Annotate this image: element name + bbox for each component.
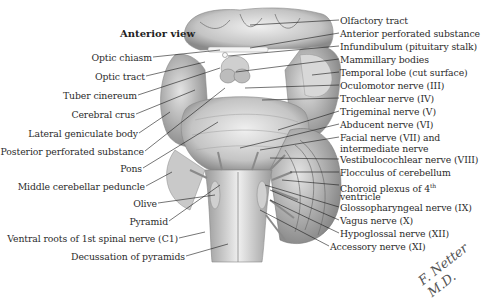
label-optic-chiasm: Optic chiasm — [91, 52, 152, 63]
label-olive: Olive — [133, 198, 157, 209]
label-optic-tract: Optic tract — [95, 71, 145, 82]
label-temporal-lobe-cut-surface: Temporal lobe (cut surface) — [340, 67, 468, 78]
label-text: Glossopharyngeal nerve (IX) — [340, 202, 472, 213]
label-ventricle: ventricle — [340, 191, 381, 202]
label-text: Trigeminal nerve (V) — [340, 106, 436, 117]
label-middle-cerebellar-peduncle: Middle cerebellar peduncle — [18, 181, 145, 192]
label-tuber-cinereum: Tuber cinereum — [63, 90, 137, 101]
label-oculomotor-nerve-iii: Oculomotor nerve (III) — [340, 80, 444, 91]
label-text: Infundibulum (pituitary stalk) — [340, 41, 477, 52]
label-text: Accessory nerve (XI) — [330, 241, 426, 252]
label-decussation-of-pyramids: Decussation of pyramids — [71, 251, 185, 262]
label-glossopharyngeal-nerve-ix: Glossopharyngeal nerve (IX) — [340, 202, 472, 213]
label-ventral-roots-of-1st-spinal-nerve-c1: Ventral roots of 1st spinal nerve (C1) — [7, 233, 178, 244]
label-text: Abducent nerve (VI) — [340, 119, 433, 130]
label-vestibulocochlear-nerve-viii: Vestibulocochlear nerve (VIII) — [340, 154, 478, 165]
label-text: Temporal lobe (cut surface) — [340, 67, 468, 78]
label-intermediate-nerve: intermediate nerve — [340, 143, 429, 154]
label-superscript: th — [430, 182, 436, 189]
label-text: Vagus nerve (X) — [340, 215, 413, 226]
label-text: Oculomotor nerve (III) — [340, 80, 444, 91]
label-text: Hypoglossal nerve (XII) — [340, 228, 449, 239]
label-facial-nerve-vii-and: Facial nerve (VII) and — [340, 132, 440, 143]
label-text: Anterior perforated substance — [340, 28, 480, 39]
label-abducent-nerve-vi: Abducent nerve (VI) — [340, 119, 433, 130]
label-text: Facial nerve (VII) and — [340, 132, 440, 143]
label-cerebral-crus: Cerebral crus — [71, 109, 135, 120]
label-olfactory-tract: Olfactory tract — [340, 15, 408, 26]
label-text: Mammillary bodies — [340, 54, 429, 65]
label-text: Olfactory tract — [340, 15, 408, 26]
label-accessory-nerve-xi: Accessory nerve (XI) — [330, 241, 426, 252]
label-trochlear-nerve-iv: Trochlear nerve (IV) — [340, 93, 434, 104]
label-text: ventricle — [340, 191, 381, 202]
figure-title: Anterior view — [120, 28, 195, 39]
label-vagus-nerve-x: Vagus nerve (X) — [340, 215, 413, 226]
label-pons: Pons — [120, 163, 142, 174]
label-trigeminal-nerve-v: Trigeminal nerve (V) — [340, 106, 436, 117]
label-infundibulum-pituitary-stalk: Infundibulum (pituitary stalk) — [340, 41, 477, 52]
label-posterior-perforated-substance: Posterior perforated substance — [1, 146, 144, 157]
label-mammillary-bodies: Mammillary bodies — [340, 54, 429, 65]
label-text: Vestibulocochlear nerve (VIII) — [340, 154, 478, 165]
label-pyramid: Pyramid — [129, 216, 168, 227]
label-text: intermediate nerve — [340, 143, 429, 154]
label-flocculus-of-cerebellum: Flocculus of cerebellum — [340, 167, 451, 178]
label-anterior-perforated-substance: Anterior perforated substance — [340, 28, 480, 39]
label-text: Trochlear nerve (IV) — [340, 93, 434, 104]
label-text: Flocculus of cerebellum — [340, 167, 451, 178]
label-hypoglossal-nerve-xii: Hypoglossal nerve (XII) — [340, 228, 449, 239]
label-lateral-geniculate-body: Lateral geniculate body — [28, 128, 138, 139]
